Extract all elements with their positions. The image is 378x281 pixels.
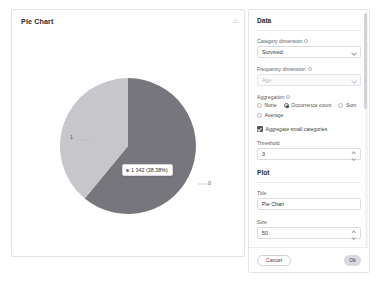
chart-tooltip: 1 342 (38.38%) xyxy=(122,164,173,176)
radio-aggregation-average[interactable]: Average xyxy=(257,112,283,118)
label-text: Aggregation xyxy=(257,94,284,100)
radio-icon xyxy=(257,103,262,108)
section-heading-data: Data xyxy=(257,17,361,24)
label-text: Category dimension xyxy=(257,38,302,44)
frequency-dimension-select[interactable]: Age xyxy=(257,74,361,86)
scrollbar-track[interactable] xyxy=(365,11,368,249)
checkbox-checked-icon xyxy=(257,126,263,132)
pie-label-0: 0 xyxy=(208,180,211,186)
ok-button[interactable]: Ok xyxy=(344,255,361,266)
tooltip-text: 1 342 (38.38%) xyxy=(131,167,168,173)
radio-aggregation-none[interactable]: None xyxy=(257,102,277,108)
label-title: Title xyxy=(257,190,361,196)
category-dimension-select[interactable]: Survived xyxy=(257,46,361,58)
radio-label: Sum xyxy=(346,102,356,108)
chevron-down-icon[interactable] xyxy=(352,235,355,238)
radio-label: Occurrence count xyxy=(291,102,331,108)
label-text: Frequency dimension xyxy=(257,66,306,72)
select-value: Survived xyxy=(262,49,283,55)
radio-label: Average xyxy=(265,112,284,118)
title-input[interactable]: Pie Chart xyxy=(257,198,361,210)
threshold-stepper[interactable]: 3 xyxy=(257,148,361,160)
info-icon[interactable] xyxy=(286,95,290,99)
info-icon[interactable] xyxy=(308,67,312,71)
checkbox-label: Aggregate small categories xyxy=(266,126,328,132)
info-icon[interactable] xyxy=(304,39,308,43)
series-dot-icon xyxy=(126,169,129,172)
label-size: Size xyxy=(257,219,361,225)
radio-aggregation-sum[interactable]: Sum xyxy=(338,102,356,108)
divider xyxy=(257,30,361,31)
aggregation-radio-row-1: None Occurrence count Sum xyxy=(257,102,361,108)
page-title: Pie Chart xyxy=(21,17,53,26)
size-stepper[interactable]: 50 xyxy=(257,227,361,239)
label-category-dimension: Category dimension xyxy=(257,38,361,44)
radio-aggregation-occurrence-count[interactable]: Occurrence count xyxy=(284,102,332,108)
label-threshold: Threshold xyxy=(257,140,361,146)
label-text: Title xyxy=(257,190,266,196)
label-aggregation: Aggregation xyxy=(257,94,361,100)
label-frequency-dimension: Frequency dimension xyxy=(257,66,361,72)
pie-chart-svg xyxy=(12,28,244,256)
chart-panel: Pie Chart 1 0 1 342 (38.38%) xyxy=(11,9,245,257)
radio-icon xyxy=(338,103,343,108)
cancel-button[interactable]: Cancel xyxy=(257,255,291,266)
stepper-buttons[interactable] xyxy=(351,151,357,160)
chevron-up-icon[interactable] xyxy=(352,151,355,154)
resize-grip-icon[interactable] xyxy=(233,18,238,24)
app-root: Pie Chart 1 0 1 342 (38.38%) xyxy=(0,0,378,281)
chevron-down-icon xyxy=(352,51,356,55)
label-text: Threshold xyxy=(257,140,280,146)
scrollbar-thumb[interactable] xyxy=(364,13,367,109)
settings-scroll-area: Data Category dimension Survived Frequen… xyxy=(249,10,369,249)
checkbox-aggregate-small-categories[interactable]: Aggregate small categories xyxy=(257,126,361,132)
radio-label: None xyxy=(265,102,277,108)
select-placeholder: Age xyxy=(262,77,271,83)
dialog-footer: Cancel Ok xyxy=(249,247,369,272)
size-value: 50 xyxy=(262,230,268,236)
label-text: Size xyxy=(257,219,267,225)
settings-panel: Data Category dimension Survived Frequen… xyxy=(248,9,370,273)
chevron-up-icon[interactable] xyxy=(352,230,355,233)
aggregation-radio-row-2: Average xyxy=(257,112,361,118)
section-heading-plot: Plot xyxy=(257,169,361,176)
radio-selected-icon xyxy=(284,103,289,108)
chevron-down-icon[interactable] xyxy=(352,156,355,159)
radio-icon xyxy=(257,113,262,118)
chevron-down-icon xyxy=(352,79,356,83)
chart-stage: 1 0 1 342 (38.38%) xyxy=(12,28,244,256)
pie-label-1: 1 xyxy=(70,134,73,140)
title-value: Pie Chart xyxy=(262,201,284,207)
divider xyxy=(257,182,361,183)
stepper-buttons[interactable] xyxy=(351,230,357,239)
threshold-value: 3 xyxy=(262,151,265,157)
